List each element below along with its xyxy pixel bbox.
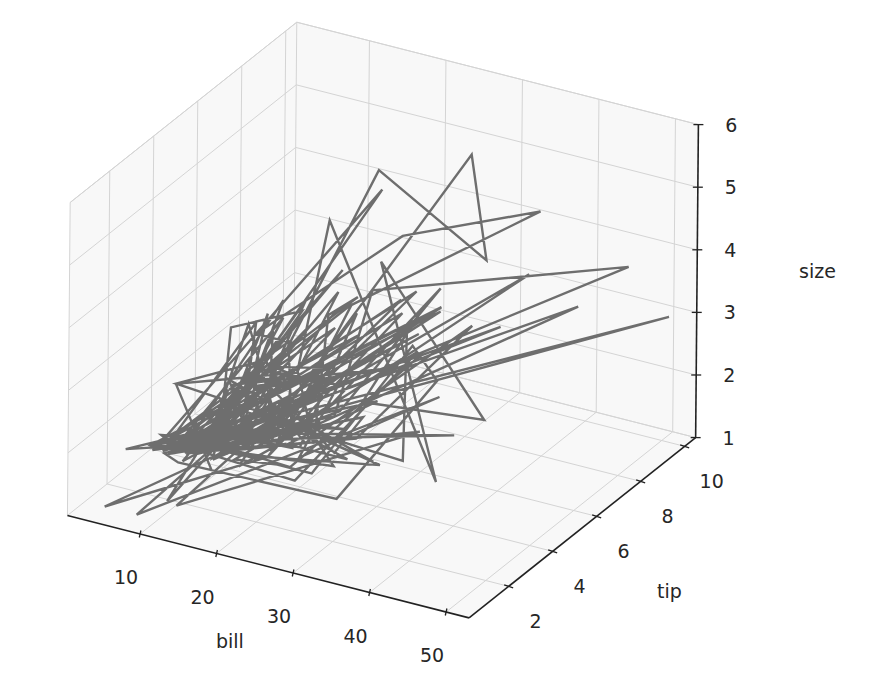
size-tick-label: 1 — [723, 427, 735, 449]
size-tick-label: 5 — [725, 176, 737, 198]
tip-axis-label: tip — [657, 580, 682, 602]
bill-tick-label: 20 — [191, 586, 215, 608]
size-axis-label: size — [799, 260, 836, 282]
bill-tick-label: 30 — [267, 605, 291, 627]
size-tick-label: 3 — [724, 301, 736, 323]
panes — [67, 22, 698, 618]
chart-3d-line: 1020304050 246810 123456 bill tip size — [0, 0, 894, 700]
tip-tick-label: 8 — [662, 505, 674, 527]
size-tick-label: 2 — [723, 364, 735, 386]
bill-axis-label: bill — [216, 630, 244, 652]
tip-tick-label: 10 — [700, 470, 724, 492]
bill-tick-label: 10 — [114, 566, 138, 588]
tip-tick-label: 6 — [618, 540, 630, 562]
tip-tick-label: 4 — [574, 575, 586, 597]
bill-tick-label: 50 — [420, 644, 444, 666]
size-tick-label: 6 — [725, 114, 737, 136]
bill-tick-label: 40 — [344, 625, 368, 647]
tip-tick-label: 2 — [530, 610, 542, 632]
size-tick-label: 4 — [724, 239, 736, 261]
